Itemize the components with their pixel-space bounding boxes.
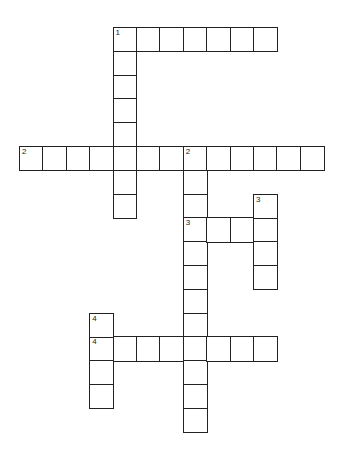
crossword-cell[interactable] [206, 336, 231, 361]
clue-number: 4 [92, 337, 96, 346]
crossword-cell[interactable] [89, 384, 114, 409]
crossword-cell[interactable] [206, 217, 231, 242]
crossword-cell[interactable] [183, 241, 208, 266]
crossword-cell[interactable] [66, 146, 91, 171]
crossword-cell[interactable] [253, 336, 278, 361]
crossword-cell[interactable] [230, 336, 255, 361]
clue-number: 3 [186, 218, 190, 227]
crossword-cell[interactable] [276, 146, 301, 171]
clue-number: 4 [92, 314, 96, 323]
clue-number: 2 [22, 147, 26, 156]
crossword-cell[interactable] [89, 360, 114, 385]
crossword-cell[interactable] [113, 122, 138, 147]
crossword-cell[interactable] [113, 170, 138, 195]
crossword-cell[interactable] [183, 313, 208, 338]
crossword-cell[interactable]: 4 [89, 313, 114, 338]
crossword-cell[interactable] [159, 336, 184, 361]
crossword-cell[interactable] [230, 146, 255, 171]
crossword-cell[interactable] [183, 384, 208, 409]
crossword-cell[interactable] [253, 146, 278, 171]
crossword-cell[interactable] [183, 194, 208, 219]
crossword-cell[interactable] [113, 75, 138, 100]
crossword-cell[interactable] [113, 194, 138, 219]
crossword-cell[interactable] [183, 360, 208, 385]
crossword-cell[interactable] [183, 289, 208, 314]
crossword-cell[interactable] [183, 27, 208, 52]
clue-number: 3 [256, 195, 260, 204]
crossword-cell[interactable]: 2 [19, 146, 44, 171]
crossword-cell[interactable] [206, 27, 231, 52]
crossword-cell[interactable] [113, 146, 138, 171]
crossword-cell[interactable]: 3 [253, 194, 278, 219]
clue-number: 1 [116, 28, 120, 37]
crossword-cell[interactable] [159, 146, 184, 171]
crossword-cell[interactable] [159, 27, 184, 52]
crossword-cell[interactable] [113, 336, 138, 361]
crossword-cell[interactable] [253, 265, 278, 290]
crossword-cell[interactable]: 2 [183, 146, 208, 171]
crossword-cell[interactable] [183, 336, 208, 361]
crossword-cell[interactable] [253, 241, 278, 266]
crossword-cell[interactable] [300, 146, 325, 171]
crossword-cell[interactable] [230, 217, 255, 242]
crossword-cell[interactable] [230, 27, 255, 52]
crossword-cell[interactable] [253, 217, 278, 242]
crossword-cell[interactable]: 4 [89, 336, 114, 361]
crossword-cell[interactable] [89, 146, 114, 171]
crossword-cell[interactable]: 1 [113, 27, 138, 52]
crossword-cell[interactable] [113, 98, 138, 123]
crossword-cell[interactable] [206, 146, 231, 171]
crossword-cell[interactable] [183, 265, 208, 290]
crossword-cell[interactable] [136, 146, 161, 171]
crossword-cell[interactable] [113, 51, 138, 76]
crossword-cell[interactable] [253, 27, 278, 52]
crossword-cell[interactable] [183, 408, 208, 433]
crossword-cell[interactable] [42, 146, 67, 171]
crossword-cell[interactable] [183, 170, 208, 195]
crossword-cell[interactable]: 3 [183, 217, 208, 242]
crossword-cell[interactable] [136, 27, 161, 52]
crossword-grid: 1223344 [0, 0, 340, 451]
clue-number: 2 [186, 147, 190, 156]
crossword-cell[interactable] [136, 336, 161, 361]
